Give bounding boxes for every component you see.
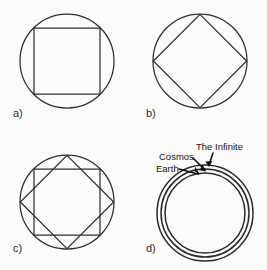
callout-label-infinite: The Infinite	[196, 141, 243, 152]
panel-d-label: d)	[146, 242, 156, 254]
panel-b-label: b)	[146, 107, 156, 119]
geometric-figure: a) b) c) The Infin	[0, 0, 267, 270]
panel-c-label: c)	[13, 242, 22, 254]
panel-a-label: a)	[13, 107, 23, 119]
callout-label-earth: Earth	[156, 163, 179, 174]
figure-canvas: a) b) c) The Infin	[0, 0, 267, 270]
callout-label-cosmos: Cosmos	[159, 151, 194, 162]
